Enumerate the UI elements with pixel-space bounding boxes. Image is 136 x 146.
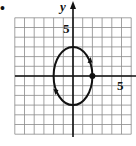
y-axis-arrow-icon: [70, 1, 76, 9]
parametric-ellipse-plot: y 5 5 •: [0, 0, 136, 146]
y-axis-label: y: [58, 0, 66, 14]
x-tick-label: 5: [117, 78, 124, 93]
start-point-marker: [89, 73, 95, 79]
bullet: •: [0, 1, 5, 16]
y-tick-label: 5: [63, 21, 70, 36]
